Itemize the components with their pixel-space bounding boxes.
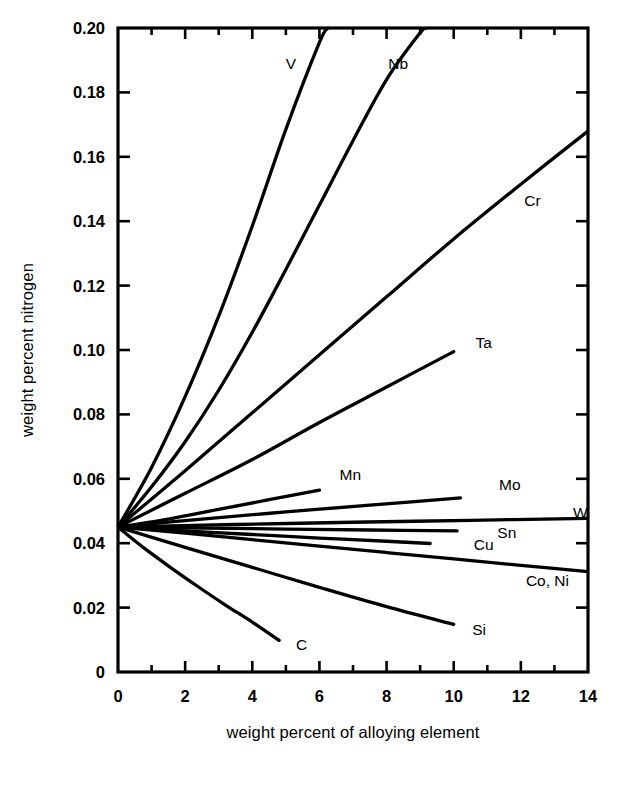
- y-tick-label: 0.12: [73, 277, 105, 295]
- curve-label-sn: Sn: [497, 524, 516, 541]
- y-tick-label: 0.20: [73, 19, 105, 37]
- curve-c: [118, 527, 279, 640]
- curve-label-mo: Mo: [499, 476, 521, 493]
- plot-frame: [118, 28, 588, 672]
- caption-strip: [0, 762, 625, 792]
- y-tick-label: 0.14: [73, 212, 106, 230]
- x-tick-label: 8: [382, 687, 391, 705]
- y-tick-label: 0.10: [73, 341, 105, 359]
- curve-nb: [118, 27, 427, 527]
- curve-label-cu: Cu: [474, 536, 494, 553]
- y-tick-label: 0.06: [73, 470, 105, 488]
- y-tick-label: 0.04: [73, 534, 106, 552]
- x-tick-label: 6: [315, 687, 324, 705]
- curves-group: [118, 27, 588, 640]
- x-tick-label: 12: [512, 687, 530, 705]
- x-tick-label: 4: [248, 687, 258, 705]
- curve-label-ta: Ta: [476, 334, 493, 351]
- x-axis-title: weight percent of alloying element: [226, 723, 480, 741]
- x-tick-label: 2: [181, 687, 190, 705]
- curve-ta: [118, 352, 454, 527]
- x-tick-label: 14: [579, 687, 598, 705]
- curve-label-nb: Nb: [388, 55, 408, 72]
- x-tick-label: 0: [113, 687, 122, 705]
- y-tick-label: 0.02: [73, 599, 105, 617]
- y-axis-title: weight percent nitrogen: [18, 263, 36, 438]
- figure-container: 00.020.040.060.080.100.120.140.160.180.2…: [0, 0, 625, 792]
- curve-label-v: V: [286, 55, 297, 72]
- y-tick-label: 0.18: [73, 83, 105, 101]
- y-tick-label: 0: [96, 663, 105, 681]
- curve-label-cr: Cr: [524, 192, 540, 209]
- curve-label-mn: Mn: [340, 466, 362, 483]
- nitrogen-solubility-chart: 00.020.040.060.080.100.120.140.160.180.2…: [0, 0, 625, 792]
- y-tick-label: 0.16: [73, 148, 105, 166]
- curve-label-w: W: [573, 504, 588, 521]
- curve-label-coni: Co, Ni: [526, 572, 569, 589]
- curve-label-c: C: [296, 636, 307, 653]
- x-tick-label: 10: [445, 687, 463, 705]
- curve-v: [118, 28, 328, 527]
- curve-label-si: Si: [472, 621, 486, 638]
- y-tick-label: 0.08: [73, 405, 105, 423]
- curve-mn: [118, 490, 319, 527]
